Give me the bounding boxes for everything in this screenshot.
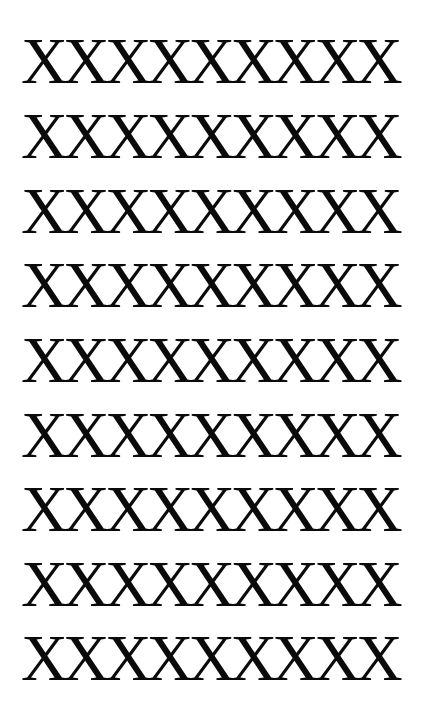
x-row-9: XXXXXXXXX bbox=[21, 626, 398, 691]
x-row-5: XXXXXXXXX bbox=[21, 328, 398, 393]
x-row-2: XXXXXXXXX bbox=[21, 104, 398, 169]
x-row-3: XXXXXXXXX bbox=[21, 179, 398, 244]
x-row-6: XXXXXXXXX bbox=[21, 403, 398, 468]
x-row-4: XXXXXXXXX bbox=[21, 253, 398, 318]
x-row-8: XXXXXXXXX bbox=[21, 552, 398, 617]
x-row-1: XXXXXXXXX bbox=[21, 29, 398, 94]
x-row-7: XXXXXXXXX bbox=[21, 477, 398, 542]
